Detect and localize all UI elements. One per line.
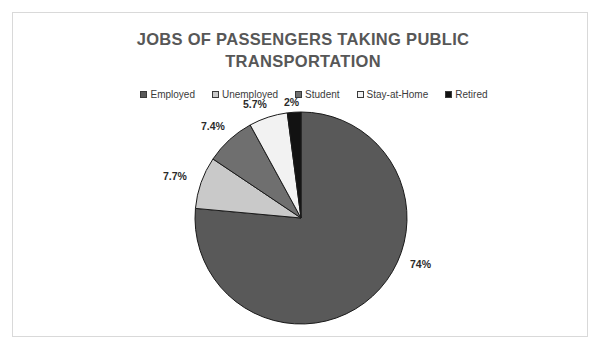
pie-slices [195,112,407,324]
chart-screenshot: JOBS OF PASSENGERS TAKING PUBLIC TRANSPO… [0,0,602,349]
data-label-student: 7.4% [201,120,225,132]
pie-chart-area: 2% 5.7% 7.4% 7.7% 74% [0,0,602,349]
data-label-unemployed: 7.7% [163,170,187,182]
pie-chart-svg [0,0,602,349]
data-label-retired: 2% [284,96,299,108]
data-label-employed: 74% [410,258,431,270]
data-label-stay-at-home: 5.7% [243,98,267,110]
